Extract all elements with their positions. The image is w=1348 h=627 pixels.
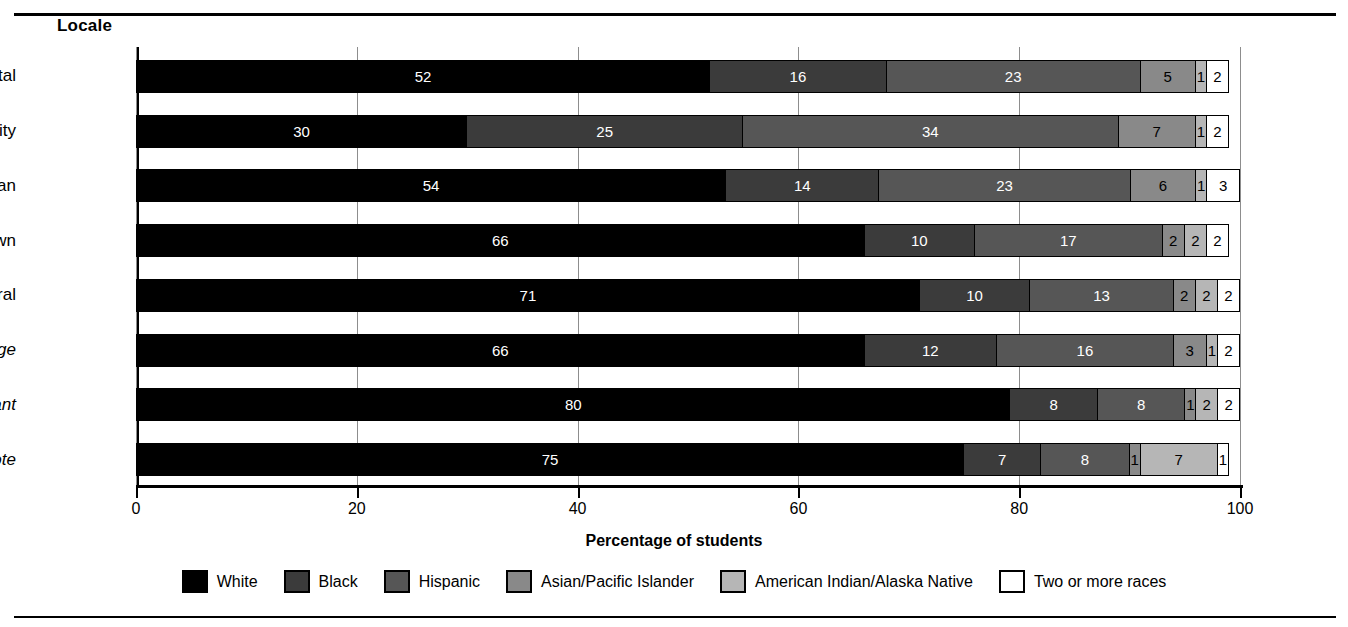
bar-segment: 8: [1041, 443, 1129, 476]
chart-legend: WhiteBlackHispanicAsian/Pacific Islander…: [0, 570, 1348, 593]
legend-item: Asian/Pacific Islander: [506, 570, 694, 593]
bar-segment-value: 23: [1005, 69, 1022, 84]
stacked-bar: 711013222: [136, 279, 1240, 312]
bar-segment-value: 2: [1169, 233, 1177, 248]
chart-row: Suburban541423613: [136, 169, 1240, 202]
bar-segment-value: 6: [1159, 178, 1167, 193]
x-axis-tick: [357, 488, 359, 498]
bar-segment: 1: [1185, 388, 1196, 421]
bar-segment-value: 7: [1153, 124, 1161, 139]
bar-segment-value: 14: [794, 178, 811, 193]
chart-row: Rural, fringe661216312: [136, 334, 1240, 367]
bar-segment: 6: [1131, 169, 1197, 202]
legend-item: Two or more races: [999, 570, 1166, 593]
bar-segment-value: 75: [542, 452, 559, 467]
stacked-bar: 8088122: [136, 388, 1240, 421]
legend-label: American Indian/Alaska Native: [755, 573, 973, 591]
y-axis-label: Rural, fringe: [0, 340, 16, 360]
legend-swatch: [182, 570, 208, 593]
bar-segment: 2: [1196, 279, 1218, 312]
chart-row: Rural, distant8088122: [136, 388, 1240, 421]
x-axis-tick-label: 20: [327, 500, 387, 518]
bar-segment: 1: [1196, 60, 1207, 93]
bar-segment: 2: [1218, 388, 1240, 421]
bar-segment: 30: [136, 115, 467, 148]
bar-segment-value: 8: [1081, 452, 1089, 467]
x-axis-tick-label: 40: [548, 500, 608, 518]
bar-segment-value: 80: [565, 397, 582, 412]
bar-segment-value: 66: [492, 343, 509, 358]
bar-segment-value: 25: [596, 124, 613, 139]
bar-segment-value: 10: [911, 233, 928, 248]
x-axis-tick: [1240, 488, 1242, 498]
bar-segment-value: 13: [1093, 288, 1110, 303]
legend-item: Hispanic: [384, 570, 480, 593]
bar-segment: 7: [1119, 115, 1196, 148]
legend-item: American Indian/Alaska Native: [720, 570, 973, 593]
bar-segment-value: 2: [1213, 69, 1221, 84]
y-axis-label: Town: [0, 231, 16, 251]
bar-segment: 80: [136, 388, 1010, 421]
legend-swatch: [720, 570, 746, 593]
x-axis-title: Percentage of students: [0, 532, 1348, 550]
bar-segment: 3: [1207, 169, 1240, 202]
bar-segment-value: 7: [998, 452, 1006, 467]
bar-segment-value: 54: [423, 178, 440, 193]
bar-segment-value: 16: [1077, 343, 1094, 358]
bar-segment: 23: [887, 60, 1141, 93]
chart-row: City302534712: [136, 115, 1240, 148]
bar-segment-value: 2: [1224, 397, 1232, 412]
bar-segment-value: 2: [1203, 397, 1211, 412]
bar-segment: 66: [136, 224, 865, 257]
bar-segment-value: 71: [520, 288, 537, 303]
top-rule: [14, 13, 1336, 16]
legend-label: Two or more races: [1034, 573, 1166, 591]
bar-segment: 2: [1207, 224, 1229, 257]
bar-segment: 2: [1185, 224, 1207, 257]
bar-segment-value: 34: [922, 124, 939, 139]
legend-label: Asian/Pacific Islander: [541, 573, 694, 591]
bar-segment-value: 10: [966, 288, 983, 303]
bar-segment-value: 52: [415, 69, 432, 84]
plot-area: Total521623512City302534712Suburban54142…: [136, 47, 1240, 485]
bar-segment: 2: [1218, 334, 1240, 367]
legend-label: Black: [319, 573, 358, 591]
bar-segment-value: 12: [922, 343, 939, 358]
gridline: [1240, 47, 1241, 485]
bar-segment: 14: [726, 169, 879, 202]
x-axis-line: [136, 485, 1243, 488]
bar-segment: 7: [964, 443, 1041, 476]
legend-item: Black: [284, 570, 358, 593]
bar-segment-value: 2: [1224, 288, 1232, 303]
y-axis-label: Rural: [0, 285, 16, 305]
legend-label: Hispanic: [419, 573, 480, 591]
legend-swatch: [284, 570, 310, 593]
y-axis-title: Locale: [57, 16, 112, 36]
bar-segment-value: 8: [1049, 397, 1057, 412]
stacked-bar: 521623512: [136, 60, 1240, 93]
x-axis-tick-label: 0: [106, 500, 166, 518]
bar-segment-value: 1: [1197, 69, 1205, 84]
bar-segment-value: 17: [1060, 233, 1077, 248]
bar-segment: 2: [1174, 279, 1196, 312]
legend-swatch: [506, 570, 532, 593]
bar-segment-value: 1: [1130, 452, 1138, 467]
x-axis-tick-label: 60: [768, 500, 828, 518]
stacked-bar: 302534712: [136, 115, 1240, 148]
bar-segment: 71: [136, 279, 920, 312]
bar-segment: 2: [1196, 388, 1218, 421]
bar-segment-value: 1: [1219, 452, 1227, 467]
bar-segment: 1: [1196, 115, 1207, 148]
bar-segment: 54: [136, 169, 726, 202]
bar-segment-value: 2: [1213, 124, 1221, 139]
bar-segment: 52: [136, 60, 710, 93]
chart-figure: Locale Total521623512City302534712Suburb…: [0, 0, 1348, 627]
bar-segment: 66: [136, 334, 865, 367]
bar-segment-value: 30: [293, 124, 310, 139]
y-axis-label: Total: [0, 66, 16, 86]
bar-segment-value: 2: [1202, 288, 1210, 303]
bar-segment: 23: [879, 169, 1130, 202]
y-axis-label: Rural, remote: [0, 450, 16, 470]
legend-item: White: [182, 570, 258, 593]
bar-segment: 1: [1196, 169, 1207, 202]
